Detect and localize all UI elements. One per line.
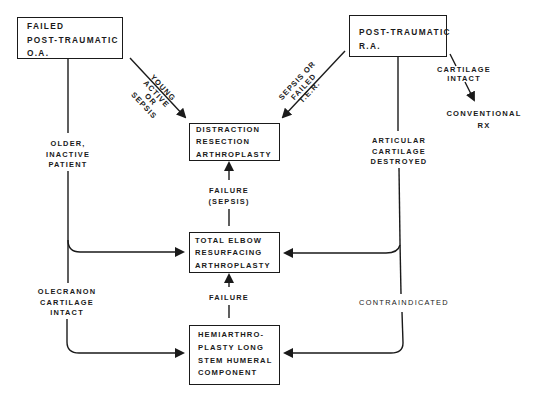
arrow-ra-to-hemi: [285, 343, 403, 353]
label-failure-sepsis: FAILURE (SEPSIS): [202, 186, 256, 207]
arrow-ra-to-total-elbow: [285, 245, 400, 253]
label-text: DESTROYED: [366, 157, 432, 168]
node-text: ARTHROPLASTY: [196, 149, 279, 161]
node-text: DISTRACTION: [196, 124, 279, 136]
node-text: CONVENTIONAL: [442, 108, 526, 120]
label-text: CARTILAGE: [366, 147, 432, 158]
arrow-oa-to-hemi: [67, 342, 183, 353]
node-text: R.A.: [359, 40, 446, 54]
label-text: ARTICULAR: [366, 136, 432, 147]
label-contraindicated: CONTRAINDICATED: [356, 298, 452, 309]
node-text: RX: [442, 120, 526, 132]
label-text: CARTILAGE: [34, 298, 100, 309]
label-olecranon-cartilage-intact: OLECRANON CARTILAGE INTACT: [34, 287, 100, 319]
node-post-traumatic-ra: POST-TRAUMATIC R.A.: [349, 15, 447, 57]
node-text: RESECTION: [196, 136, 279, 148]
label-older-inactive-patient: OLDER, INACTIVE PATIENT: [38, 139, 98, 171]
node-hemiarthroplasty: HEMIARTHRO- PLASTY LONG STEM HUMERAL COM…: [189, 325, 280, 385]
node-distraction-resection-arthroplasty: DISTRACTION RESECTION ARTHROPLASTY: [189, 123, 280, 161]
label-text: INACTIVE: [38, 150, 98, 161]
label-text: CONTRAINDICATED: [356, 298, 452, 309]
node-text: HEMIARTHRO-: [198, 329, 279, 342]
label-failure: FAILURE: [202, 293, 256, 304]
label-text: OLECRANON: [34, 287, 100, 298]
node-text: STEM HUMERAL: [198, 355, 279, 368]
node-text: COMPONENT: [198, 367, 279, 380]
node-text: POST-TRAUMATIC: [27, 34, 122, 48]
node-total-elbow-resurfacing-arthroplasty: TOTAL ELBOW RESURFACING ARTHROPLASTY: [189, 232, 280, 273]
node-text: RESURFACING: [195, 247, 279, 259]
node-text: TOTAL ELBOW: [195, 235, 279, 247]
label-text: INTACT: [34, 308, 100, 319]
node-text: FAILED: [27, 20, 122, 34]
node-text: O.A.: [27, 47, 122, 61]
node-text: POST-TRAUMATIC: [359, 26, 446, 40]
label-text: FAILURE: [202, 293, 256, 304]
node-text: ARTHROPLASTY: [195, 260, 279, 272]
label-articular-cartilage-destroyed: ARTICULAR CARTILAGE DESTROYED: [366, 136, 432, 168]
label-text: (SEPSIS): [202, 197, 256, 208]
label-text: PATIENT: [38, 160, 98, 171]
label-text: INTACT: [432, 75, 496, 84]
node-conventional-rx: CONVENTIONAL RX: [442, 108, 526, 132]
label-text: FAILURE: [202, 186, 256, 197]
label-cartilage-intact: CARTILAGE INTACT: [432, 66, 496, 83]
node-failed-post-traumatic-oa: FAILED POST-TRAUMATIC O.A.: [17, 17, 123, 59]
arrow-oa-to-total-elbow: [68, 240, 183, 252]
node-text: PLASTY LONG: [198, 342, 279, 355]
label-text: OLDER,: [38, 139, 98, 150]
